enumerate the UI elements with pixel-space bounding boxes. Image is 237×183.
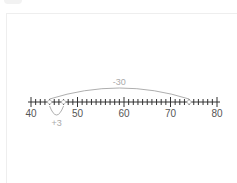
axis-label-50: 50 (72, 108, 84, 119)
point-marker (187, 100, 191, 104)
axis-label-80: 80 (211, 108, 223, 119)
point-marker (62, 100, 66, 104)
jump-label: -30 (113, 77, 126, 87)
point-marker (48, 100, 52, 104)
number-line-diagram: 4050607080 -30+3 (0, 0, 237, 183)
jump-arc (50, 106, 64, 115)
axis-label-60: 60 (118, 108, 130, 119)
axis-label-70: 70 (165, 108, 177, 119)
jump-arc (50, 88, 190, 99)
axis-label-40: 40 (25, 108, 37, 119)
jump-label: +3 (51, 118, 61, 128)
